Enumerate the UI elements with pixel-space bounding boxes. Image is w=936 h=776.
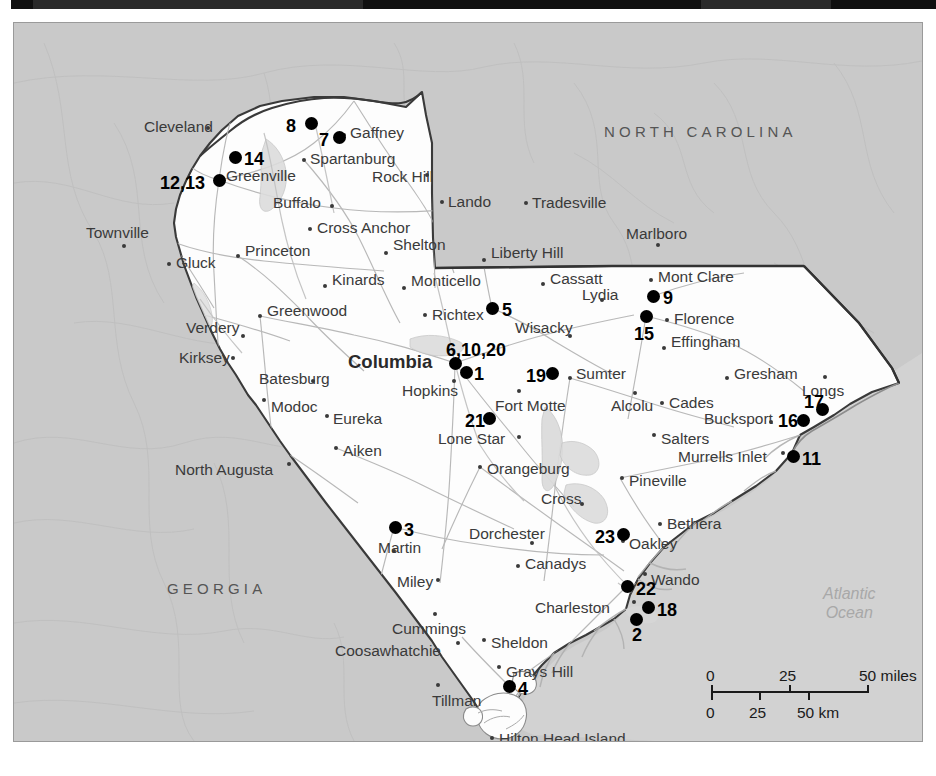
town-label-sheldon: Sheldon [491,635,548,651]
town-dot-princeton [236,254,240,258]
site-22-number: 22 [636,580,656,598]
site-5-marker[interactable] [486,302,499,315]
site-9-number: 9 [663,289,673,307]
scale-label-km-25: 25 [749,704,766,722]
town-dot-sumter [568,376,572,380]
town-label-north-augusta: North Augusta [175,462,273,478]
map-label-layer: NORTH CAROLINAGEORGIAAtlanticOceanClevel… [14,23,922,741]
site-11-marker[interactable] [787,450,800,463]
town-dot-cross-anchor [308,227,312,231]
town-dot-alcolu [633,391,637,395]
site-7-marker[interactable] [333,131,346,144]
town-label-grays-hill: Grays Hill [506,664,573,680]
town-label-cross-anchor: Cross Anchor [317,220,410,236]
scan-artifact-bar [11,0,936,9]
town-label-hilton-head-island: Hilton Head Island [499,731,626,742]
town-label-murrells-inlet: Murrells Inlet [678,449,767,465]
town-label-mont-clare: Mont Clare [658,269,734,285]
town-label-eureka: Eureka [333,411,382,427]
town-dot-murrells-inlet [781,451,785,455]
site-16-marker[interactable] [797,414,810,427]
town-label-pineville: Pineville [629,473,687,489]
town-dot-bethera [658,522,662,526]
site-7-number: 7 [319,131,329,149]
town-label-liberty-hill: Liberty Hill [491,245,563,261]
site-3-number: 3 [404,521,414,539]
town-label-gresham: Gresham [734,366,798,382]
town-label-greenville: Greenville [226,168,296,184]
town-dot-north-augusta [287,462,291,466]
site-4-marker[interactable] [503,680,516,693]
town-label-greenwood: Greenwood [267,303,347,319]
map-frame: NORTH CAROLINAGEORGIAAtlanticOceanClevel… [13,22,923,742]
site-23-marker[interactable] [617,528,630,541]
town-label-cummings: Cummings [392,621,466,637]
town-dot-aiken [334,446,338,450]
site-2-marker[interactable] [630,613,643,626]
site-19-number: 19 [526,367,546,385]
scale-label-km-50: 50 km [797,704,839,722]
town-dot-modoc [262,398,266,402]
town-label-tradesville: Tradesville [532,195,606,211]
town-dot-shelton [384,251,388,255]
state-label-north-carolina: NORTH CAROLINA [604,123,797,140]
scale-tick-km-50 [808,692,810,700]
town-label-columbia: Columbia [348,354,432,370]
town-dot-kinards [323,284,327,288]
site-15-number: 15 [634,325,654,343]
town-label-miley: Miley [397,574,433,590]
town-label-oakley: Oakley [629,536,677,552]
town-label-buffalo: Buffalo [273,195,321,211]
town-label-princeton: Princeton [245,243,310,259]
site-2-number: 2 [632,626,642,644]
site-3-marker[interactable] [389,521,402,534]
site-9-marker[interactable] [647,290,660,303]
town-dot-richtex [423,313,427,317]
town-label-cades: Cades [669,395,714,411]
town-label-florence: Florence [674,311,734,327]
town-label-verdery: Verdery [186,320,239,336]
town-dot-sheldon [482,638,486,642]
town-label-bethera: Bethera [667,516,721,532]
site-18-marker[interactable] [642,601,655,614]
town-dot-kirksey [231,356,235,360]
town-dot-cummings [433,612,437,616]
town-label-cleveland: Cleveland [144,119,213,135]
town-label-coosawhatchie: Coosawhatchie [335,643,441,659]
town-label-kirksey: Kirksey [179,350,230,366]
town-dot-hilton-head-island [490,736,494,740]
site-6-10-20-number: 6,10,20 [446,341,506,359]
town-label-spartanburg: Spartanburg [310,151,395,167]
site-1-marker[interactable] [460,366,473,379]
town-label-monticello: Monticello [411,273,481,289]
site-8-number: 8 [286,117,296,135]
town-label-alcolu: Alcolu [611,398,653,414]
scale-tick-km-25 [759,692,761,700]
town-label-charleston: Charleston [535,600,610,616]
town-label-dorchester: Dorchester [469,526,545,542]
town-label-modoc: Modoc [271,399,318,415]
town-label-aiken: Aiken [343,443,382,459]
town-label-wisacky: Wisacky [515,320,573,336]
site-22-marker[interactable] [621,580,634,593]
town-dot-verdery [241,334,245,338]
site-12-13-marker[interactable] [213,174,226,187]
town-dot-cades [660,401,664,405]
town-label-bucksport: Bucksport [704,411,773,427]
site-8-marker[interactable] [305,117,318,130]
town-label-cassatt: Cassatt [550,271,603,287]
town-dot-lone-star [517,435,521,439]
town-label-effingham: Effingham [671,334,741,350]
site-15-marker[interactable] [640,310,653,323]
town-dot-townville [122,244,126,248]
town-label-salters: Salters [661,431,709,447]
town-dot-cassatt [541,282,545,286]
town-label-cross: Cross [541,491,581,507]
town-dot-charleston [632,600,636,604]
site-19-marker[interactable] [546,367,559,380]
town-dot-miley [436,578,440,582]
state-label-georgia: GEORGIA [167,580,266,597]
site-4-number: 4 [518,680,528,698]
site-14-marker[interactable] [229,151,242,164]
ocean-label: AtlanticOcean [823,584,875,622]
